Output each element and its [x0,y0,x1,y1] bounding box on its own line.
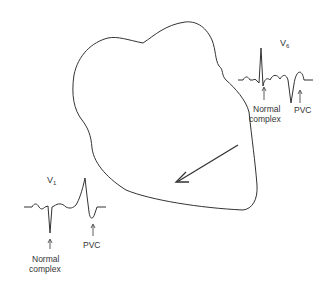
ecg-heart-diagram: V6 Normal complex PVC V1 Normal complex [0,0,333,285]
v6-normal-complex-label-line2: complex [249,114,281,124]
lead-v1-group: V1 Normal complex PVC [24,175,106,274]
v1-normal-pointer-arrow [48,239,52,249]
v6-pvc-label: PVC [294,105,311,115]
v6-pvc-pointer-arrow [298,90,302,103]
depolarization-arrow [176,145,238,182]
lead-v1-label: V1 [47,175,57,186]
heart-outline [73,22,257,210]
v6-normal-pointer-arrow [262,87,266,100]
v6-normal-complex-label-line1: Normal [253,104,281,114]
v1-normal-complex-label-line1: Normal [32,254,60,264]
lead-v6-tracing [238,48,313,103]
v1-pvc-pointer-arrow [91,224,95,236]
v1-pvc-label: PVC [83,240,100,250]
v1-normal-complex-label-line2: complex [29,264,61,274]
lead-v6-label: V6 [280,38,290,49]
